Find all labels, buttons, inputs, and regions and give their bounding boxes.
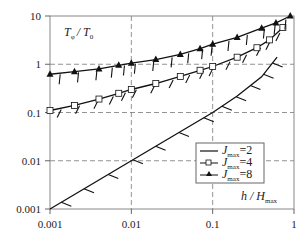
y-tick-label: 0.1 xyxy=(27,107,41,119)
legend: Jmax=2 Jmax=4 Jmax=8 xyxy=(196,143,264,183)
x-tick-label: 0.1 xyxy=(206,218,220,230)
y-axis-label: Tφ/ T0 xyxy=(64,25,94,41)
y-tick-label: 0.01 xyxy=(22,155,41,167)
x-tick-label: 0.001 xyxy=(38,218,63,230)
y-tick-label: 0.001 xyxy=(16,203,41,215)
x-tick-label: 1 xyxy=(291,218,297,230)
chart: 0.0010.010.110.0010.010.1110 Tφ/ T0 h / … xyxy=(0,0,307,242)
x-tick-label: 0.01 xyxy=(122,218,141,230)
y-tick-label: 1 xyxy=(36,58,42,70)
y-tick-label: 10 xyxy=(30,10,42,22)
x-axis-label: h / Hmax xyxy=(241,189,278,205)
